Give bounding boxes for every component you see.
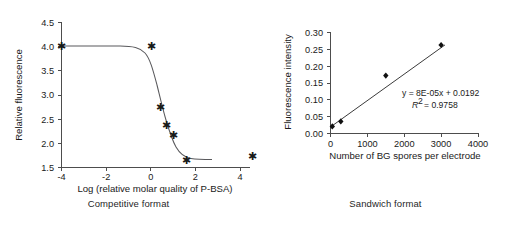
x-tick-label-1000: 1000 bbox=[357, 139, 377, 149]
y-tick-label-0-05: 0.05 bbox=[305, 112, 323, 122]
x-tick-label-0: 0 bbox=[328, 139, 333, 149]
x-axis-ticks bbox=[62, 168, 241, 172]
data-point-marker: ✱ bbox=[169, 129, 178, 141]
x-tick-label-neg4: -4 bbox=[57, 172, 65, 182]
sandwich-format-chart: 0.30 0.25 0.20 0.15 0.10 0.05 0.00 0 100… bbox=[257, 0, 514, 226]
chart-panel-competitive: 4.5 4.0 3.5 3.0 2.5 2.0 1.5 -4 -2 0 2 4 bbox=[0, 0, 257, 226]
x-tick-label-0: 0 bbox=[148, 172, 153, 182]
x-tick-label-3000: 3000 bbox=[431, 139, 451, 149]
trendline-equation: y = 8E-05x + 0.0192 bbox=[402, 88, 480, 98]
y-tick-label-0-30: 0.30 bbox=[305, 28, 323, 38]
y-axis-title: Fluorescence intensity bbox=[282, 34, 293, 130]
x-axis-title: Number of BG spores per electrode bbox=[329, 150, 480, 161]
data-points-group: ✱ ✱ ✱ ✱ ✱ ✱ ✱ bbox=[57, 40, 257, 167]
data-point-marker: ✱ bbox=[147, 40, 156, 52]
data-point-marker bbox=[383, 73, 388, 79]
y-tick-label-3-5: 3.5 bbox=[41, 66, 54, 76]
x-axis-ticks bbox=[331, 134, 479, 138]
sigmoid-fit-curve bbox=[62, 46, 213, 160]
x-axis-title: Log (relative molar quality of P-BSA) bbox=[77, 183, 232, 194]
y-tick-label-0-25: 0.25 bbox=[305, 45, 323, 55]
y-axis-title: Relative fluorescence bbox=[13, 49, 24, 141]
data-point-marker bbox=[338, 118, 343, 124]
x-tick-label-4: 4 bbox=[237, 172, 242, 182]
y-tick-label-4-5: 4.5 bbox=[41, 18, 54, 28]
x-tick-label-4000: 4000 bbox=[468, 139, 488, 149]
y-tick-label-2-0: 2.0 bbox=[41, 139, 54, 149]
y-tick-label-0-20: 0.20 bbox=[305, 62, 323, 72]
data-point-marker bbox=[438, 42, 443, 48]
trend-line bbox=[331, 45, 446, 127]
data-points-group bbox=[330, 42, 444, 130]
x-tick-label-2000: 2000 bbox=[394, 139, 414, 149]
y-axis-ticks bbox=[327, 33, 331, 134]
panel-caption-sandwich: Sandwich format bbox=[257, 198, 514, 209]
data-point-marker: ✱ bbox=[57, 40, 66, 52]
y-tick-label-0-10: 0.10 bbox=[305, 95, 323, 105]
r-squared-value: = 0.9758 bbox=[424, 100, 458, 110]
data-point-marker: ✱ bbox=[182, 154, 191, 166]
r-squared-annotation: R 2 = 0.9758 bbox=[412, 96, 458, 110]
figure-root: 4.5 4.0 3.5 3.0 2.5 2.0 1.5 -4 -2 0 2 4 bbox=[0, 0, 514, 226]
y-tick-label-4-0: 4.0 bbox=[41, 42, 54, 52]
competitive-format-chart: 4.5 4.0 3.5 3.0 2.5 2.0 1.5 -4 -2 0 2 4 bbox=[0, 0, 257, 226]
x-tick-label-neg2: -2 bbox=[102, 172, 110, 182]
r-squared-exponent: 2 bbox=[418, 96, 423, 106]
data-point-marker-outlier: ✱ bbox=[248, 150, 257, 162]
chart-panel-sandwich: 0.30 0.25 0.20 0.15 0.10 0.05 0.00 0 100… bbox=[257, 0, 514, 226]
y-tick-label-1-5: 1.5 bbox=[41, 163, 54, 173]
panel-caption-competitive: Competitive format bbox=[0, 198, 257, 209]
x-tick-label-2: 2 bbox=[193, 172, 198, 182]
y-tick-label-0-15: 0.15 bbox=[305, 78, 323, 88]
y-tick-label-2-5: 2.5 bbox=[41, 115, 54, 125]
y-tick-label-3-0: 3.0 bbox=[41, 90, 54, 100]
data-point-marker: ✱ bbox=[156, 101, 165, 113]
y-tick-label-0-00: 0.00 bbox=[305, 129, 323, 139]
